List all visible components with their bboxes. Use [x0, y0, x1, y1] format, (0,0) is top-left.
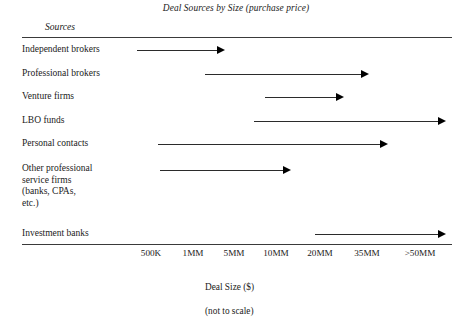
- x-axis-caption-line1: Deal Size ($): [205, 281, 254, 293]
- arrow-head-icon: [438, 230, 446, 238]
- arrow-shaft: [205, 74, 362, 75]
- table-bottom-rule: [22, 244, 452, 245]
- row-label: Venture firms: [22, 91, 74, 103]
- x-axis-tick-label: 35MM: [354, 248, 380, 258]
- row-label: Personal contacts: [22, 138, 88, 150]
- range-arrow: [315, 230, 446, 239]
- x-axis-caption: Deal Size ($) (not to scale): [205, 269, 254, 321]
- row-label: Professional brokers: [22, 68, 100, 80]
- x-axis-tick-label: 1MM: [183, 248, 204, 258]
- table-top-rule: [22, 37, 452, 38]
- range-arrow: [160, 166, 291, 175]
- arrow-shaft: [254, 121, 439, 122]
- chart-title: Deal Sources by Size (purchase price): [0, 3, 472, 13]
- row-label: Other professional service firms (banks,…: [22, 163, 92, 209]
- range-arrow: [158, 140, 388, 149]
- row-label: LBO funds: [22, 115, 65, 127]
- arrow-shaft: [265, 97, 337, 98]
- arrow-shaft: [158, 144, 381, 145]
- x-axis-tick-label: 20MM: [307, 248, 333, 258]
- x-axis-tick-label: >50MM: [405, 248, 436, 258]
- arrow-shaft: [137, 50, 218, 51]
- range-arrow: [205, 70, 369, 79]
- range-arrow: [137, 46, 225, 55]
- arrow-shaft: [160, 170, 284, 171]
- arrow-head-icon: [283, 166, 291, 174]
- arrow-head-icon: [438, 117, 446, 125]
- arrow-head-icon: [361, 70, 369, 78]
- arrow-head-icon: [217, 46, 225, 54]
- row-label: Independent brokers: [22, 44, 100, 56]
- x-axis-caption-line2: (not to scale): [205, 305, 254, 317]
- arrow-head-icon: [380, 140, 388, 148]
- range-arrow: [265, 93, 344, 102]
- row-label: Investment banks: [22, 228, 89, 240]
- x-axis-tick-label: 5MM: [224, 248, 245, 258]
- x-axis-tick-label: 10MM: [263, 248, 289, 258]
- arrow-head-icon: [336, 93, 344, 101]
- range-arrow: [254, 117, 446, 126]
- sources-column-heading: Sources: [45, 21, 75, 32]
- arrow-shaft: [315, 234, 439, 235]
- x-axis-tick-label: 500K: [141, 248, 161, 258]
